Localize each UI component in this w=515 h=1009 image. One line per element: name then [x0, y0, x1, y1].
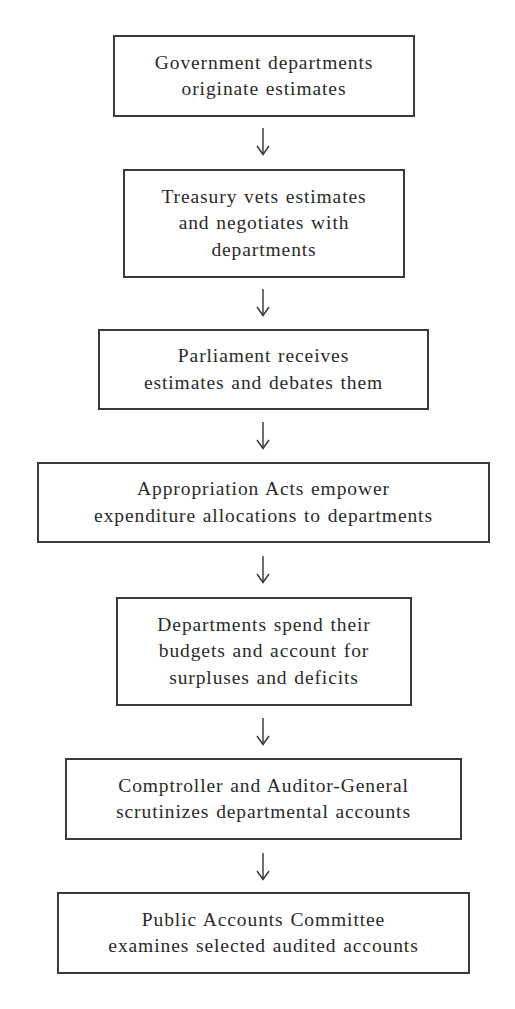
- step-text-line: Appropriation Acts empower: [137, 476, 390, 503]
- step-text-line: originate estimates: [182, 76, 347, 103]
- step-text-line: and negotiates with: [179, 210, 350, 237]
- down-arrow-icon: [255, 421, 271, 450]
- flow-step-public-accounts-committee: Public Accounts Committee examines selec…: [57, 892, 470, 974]
- step-text-line: Government departments: [155, 50, 373, 77]
- step-text-line: budgets and account for: [159, 638, 370, 665]
- step-text-line: departments: [211, 237, 316, 264]
- step-text-line: Departments spend their: [157, 612, 370, 639]
- step-text-line: surpluses and deficits: [169, 665, 359, 692]
- down-arrow-icon: [255, 852, 271, 881]
- step-text-line: Treasury vets estimates: [161, 184, 366, 211]
- flow-step-parliament: Parliament receives estimates and debate…: [98, 329, 429, 410]
- step-text-line: Public Accounts Committee: [142, 907, 385, 934]
- step-text-line: estimates and debates them: [144, 370, 383, 397]
- flow-step-appropriation-acts: Appropriation Acts empower expenditure a…: [37, 462, 490, 543]
- flow-step-departments-spend: Departments spend their budgets and acco…: [116, 597, 412, 706]
- down-arrow-icon: [255, 127, 271, 156]
- step-text-line: expenditure allocations to departments: [94, 503, 433, 530]
- step-text-line: Comptroller and Auditor-General: [118, 773, 409, 800]
- flow-step-comptroller-auditor-general: Comptroller and Auditor-General scrutini…: [65, 758, 462, 840]
- down-arrow-icon: [255, 555, 271, 584]
- step-text-line: scrutinizes departmental accounts: [116, 799, 411, 826]
- down-arrow-icon: [255, 288, 271, 317]
- flow-step-government-departments: Government departments originate estimat…: [113, 35, 415, 117]
- step-text-line: examines selected audited accounts: [108, 933, 418, 960]
- step-text-line: Parliament receives: [178, 343, 349, 370]
- flow-step-treasury: Treasury vets estimates and negotiates w…: [123, 169, 405, 278]
- down-arrow-icon: [255, 717, 271, 746]
